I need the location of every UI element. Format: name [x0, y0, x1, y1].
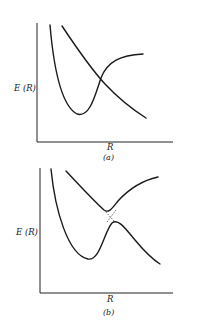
x-label-b: R: [106, 294, 114, 304]
figure: E (R) R (a) E (R) R (b): [0, 0, 201, 327]
upper-adiabatic-curve: [66, 171, 158, 211]
caption-b: (b): [103, 308, 114, 317]
panel-b: E (R) R (b): [15, 168, 173, 317]
bound-curve-a: [50, 25, 143, 114]
caption-a: (a): [103, 153, 114, 162]
y-label-a: E (R): [13, 83, 36, 93]
y-label-b: E (R): [15, 227, 38, 237]
lower-adiabatic-curve: [51, 169, 160, 264]
x-label-a: R: [106, 142, 114, 152]
panel-a: E (R) R (a): [13, 23, 173, 162]
diabatic-crossing-dashes: [104, 210, 116, 222]
